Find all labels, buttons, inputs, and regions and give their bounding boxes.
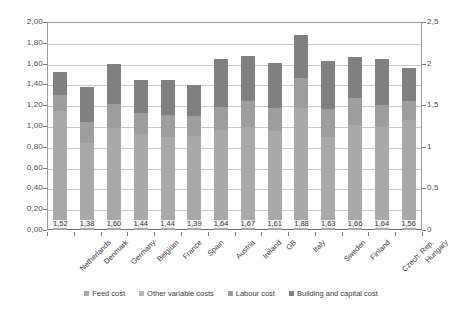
bar-segment[interactable]	[348, 57, 362, 98]
bar-segment[interactable]	[161, 137, 175, 160]
left-axis-tick-label: 1,20	[0, 101, 49, 109]
bar-segment[interactable]	[80, 87, 94, 122]
stacked-bar[interactable]	[161, 80, 175, 230]
category-tick-mark	[127, 232, 128, 236]
legend-swatch-icon	[228, 291, 233, 296]
bar-segment[interactable]	[321, 61, 335, 110]
stacked-bar[interactable]	[80, 87, 94, 231]
bar-group[interactable]: 1,56	[395, 22, 422, 230]
bar-segment[interactable]	[187, 85, 201, 115]
bar-segment[interactable]	[402, 149, 416, 230]
bar-group[interactable]: 1,64	[368, 22, 395, 230]
bar-group[interactable]: 1,52	[47, 22, 74, 230]
bar-segment[interactable]	[375, 127, 389, 154]
bar-segment[interactable]	[80, 122, 94, 143]
stacked-bar[interactable]	[134, 80, 148, 230]
bar-group[interactable]: 1,67	[235, 22, 262, 230]
legend-swatch-icon	[139, 291, 144, 296]
stacked-bar[interactable]	[107, 64, 121, 230]
bar-segment[interactable]	[187, 116, 201, 137]
bar-segment[interactable]	[161, 80, 175, 114]
bar-value-label: 1,39	[186, 220, 203, 228]
stacked-bar-chart: 0,000,200,400,600,801,001,201,401,601,80…	[0, 0, 462, 314]
legend-item[interactable]: Labour cost	[228, 289, 275, 298]
bar-segment[interactable]	[348, 125, 362, 152]
bar-segment[interactable]	[53, 111, 67, 134]
bar-segment[interactable]	[107, 128, 121, 154]
stacked-bar[interactable]	[375, 59, 389, 230]
bar-segment[interactable]	[294, 78, 308, 108]
bar-segment[interactable]	[214, 107, 228, 130]
stacked-bar[interactable]	[268, 63, 282, 230]
bar-group[interactable]: 1,60	[101, 22, 128, 230]
left-axis-tick-label: 1,40	[0, 80, 49, 88]
right-axis-tick-mark	[422, 188, 426, 189]
bar-segment[interactable]	[107, 104, 121, 128]
bar-segment[interactable]	[294, 35, 308, 79]
left-axis-tick-label: 0,80	[0, 143, 49, 151]
bar-segment[interactable]	[375, 105, 389, 127]
bar-group[interactable]: 1,39	[181, 22, 208, 230]
bar-segment[interactable]	[107, 64, 121, 105]
bar-segment[interactable]	[348, 98, 362, 125]
category-label: Germany	[129, 238, 157, 266]
stacked-bar[interactable]	[53, 72, 67, 230]
bar-segment[interactable]	[53, 134, 67, 230]
bars-layer: 1,521,381,601,441,441,391,641,671,611,88…	[47, 22, 422, 230]
category-tick-mark	[181, 232, 182, 236]
bar-value-label: 1,44	[159, 220, 176, 228]
bar-group[interactable]: 1,88	[288, 22, 315, 230]
stacked-bar[interactable]	[348, 57, 362, 230]
bar-segment[interactable]	[187, 136, 201, 160]
bar-segment[interactable]	[268, 63, 282, 109]
bar-group[interactable]: 1,61	[261, 22, 288, 230]
bar-segment[interactable]	[268, 131, 282, 157]
legend-label: Feed cost	[92, 289, 125, 298]
bar-segment[interactable]	[53, 95, 67, 112]
category-tick-mark	[368, 232, 369, 236]
category-tick-mark	[235, 232, 236, 236]
stacked-bar[interactable]	[241, 56, 255, 230]
category-axis: NetherlandsDenmarkGermanyBelgiumFranceSp…	[47, 232, 422, 282]
stacked-bar[interactable]	[321, 61, 335, 231]
bar-group[interactable]: 1,44	[154, 22, 181, 230]
bar-segment[interactable]	[241, 56, 255, 101]
stacked-bar[interactable]	[294, 35, 308, 231]
bar-segment[interactable]	[294, 138, 308, 230]
bar-segment[interactable]	[321, 137, 335, 163]
legend-item[interactable]: Other variable costs	[139, 289, 214, 298]
bar-segment[interactable]	[268, 108, 282, 131]
bar-segment[interactable]	[161, 115, 175, 138]
bar-group[interactable]: 1,38	[74, 22, 101, 230]
stacked-bar[interactable]	[187, 85, 201, 230]
bar-segment[interactable]	[134, 134, 148, 159]
bar-group[interactable]: 1,63	[315, 22, 342, 230]
bar-segment[interactable]	[134, 80, 148, 112]
stacked-bar[interactable]	[214, 59, 228, 230]
bar-value-label: 1,56	[400, 220, 417, 228]
bar-segment[interactable]	[375, 59, 389, 105]
chart-legend: Feed costOther variable costsLabour cost…	[0, 289, 462, 298]
legend-item[interactable]: Feed cost	[84, 289, 125, 298]
bar-segment[interactable]	[402, 101, 416, 120]
stacked-bar[interactable]	[402, 68, 416, 230]
bar-segment[interactable]	[53, 72, 67, 95]
bar-segment[interactable]	[402, 120, 416, 149]
right-axis-tick-mark	[422, 105, 426, 106]
bar-segment[interactable]	[134, 113, 148, 135]
bar-segment[interactable]	[241, 127, 255, 154]
bar-group[interactable]: 1,64	[208, 22, 235, 230]
bar-group[interactable]: 1,44	[127, 22, 154, 230]
bar-segment[interactable]	[80, 143, 94, 165]
bar-value-label: 1,88	[293, 220, 310, 228]
bar-segment[interactable]	[241, 101, 255, 127]
bar-segment[interactable]	[214, 130, 228, 156]
bar-segment[interactable]	[214, 59, 228, 107]
bar-segment[interactable]	[294, 108, 308, 138]
legend-item[interactable]: Building and capital cost	[289, 289, 378, 298]
bar-segment[interactable]	[402, 68, 416, 101]
right-axis-tick-label: 0	[427, 226, 461, 234]
bar-segment[interactable]	[321, 109, 335, 137]
category-label: Sweden	[342, 238, 368, 264]
bar-group[interactable]: 1,66	[342, 22, 369, 230]
